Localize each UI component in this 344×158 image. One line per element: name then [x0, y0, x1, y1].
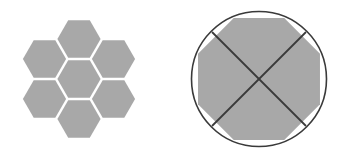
geometry-illustration — [0, 0, 344, 158]
figure-canvas — [0, 0, 344, 158]
circle-octagon-figure — [192, 12, 327, 147]
